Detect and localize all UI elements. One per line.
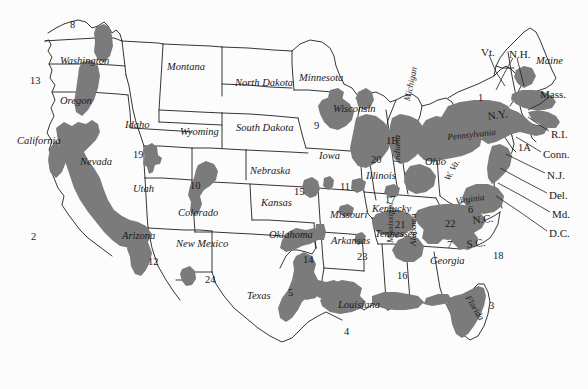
state-label-illinois: Illinois bbox=[366, 171, 396, 182]
abbr-label-conn: Conn. bbox=[543, 149, 570, 160]
state-label-nevada: Nevada bbox=[80, 157, 112, 168]
abbr-label-r-i: R.I. bbox=[551, 129, 568, 140]
state-label-new-mexico: New Mexico bbox=[176, 239, 228, 250]
number-label-3: 3 bbox=[489, 301, 494, 312]
state-label-texas: Texas bbox=[247, 291, 271, 302]
abbr-label-n-h: N.H. bbox=[509, 49, 530, 60]
number-label-9: 9 bbox=[314, 121, 319, 132]
number-label-11: 11 bbox=[340, 182, 350, 193]
abbr-label-mass: Mass. bbox=[540, 89, 566, 100]
number-label-24: 24 bbox=[205, 275, 216, 286]
state-label-california: California bbox=[17, 136, 61, 147]
number-label-2: 2 bbox=[31, 232, 36, 243]
abbr-label-del: Del. bbox=[549, 190, 568, 201]
state-label-oklahoma: Oklahoma bbox=[269, 230, 313, 241]
abbr-label-vt: Vt. bbox=[481, 47, 495, 58]
state-label-montana: Montana bbox=[167, 62, 205, 73]
number-label-23: 23 bbox=[357, 252, 368, 263]
state-label-louisiana: Louisiana bbox=[338, 300, 380, 311]
number-label-12: 12 bbox=[148, 257, 159, 268]
number-label-7: 7 bbox=[447, 240, 452, 251]
state-label-maine: Maine bbox=[536, 56, 563, 67]
number-label-1a: 1A bbox=[518, 143, 531, 154]
state-label-idaho: Idaho bbox=[125, 120, 150, 131]
number-label-22: 22 bbox=[445, 219, 456, 230]
number-label-16: 16 bbox=[397, 271, 408, 282]
state-label-north-dakota: North Dakota bbox=[235, 78, 293, 89]
number-label-15: 15 bbox=[294, 187, 305, 198]
state-label-alabama: Alabama bbox=[409, 214, 418, 247]
state-label-kansas: Kansas bbox=[261, 198, 292, 209]
state-label-utah: Utah bbox=[133, 184, 154, 195]
state-label-minnesota: Minnesota bbox=[299, 73, 343, 84]
state-label-oregon: Oregon bbox=[60, 96, 92, 107]
number-label-19: 19 bbox=[133, 150, 144, 161]
state-label-arkansas: Arkansas bbox=[331, 236, 370, 247]
us-map: WashingtonOregonCaliforniaNevadaIdahoMon… bbox=[0, 0, 588, 389]
state-label-missouri: Missouri bbox=[330, 210, 367, 221]
state-label-iowa: Iowa bbox=[319, 151, 340, 162]
state-label-arizona: Arizona bbox=[122, 231, 155, 242]
number-label-8: 8 bbox=[70, 20, 75, 31]
state-label-ohio: Ohio bbox=[425, 157, 446, 168]
number-label-5: 5 bbox=[288, 288, 293, 299]
state-label-georgia: Georgia bbox=[430, 256, 465, 267]
abbr-label-d-c: D.C. bbox=[549, 228, 570, 239]
number-label-21: 21 bbox=[395, 220, 406, 231]
state-label-washington: Washington bbox=[60, 56, 109, 67]
number-label-13: 13 bbox=[30, 76, 41, 87]
state-label-south-dakota: South Dakota bbox=[236, 123, 293, 134]
number-label-14: 14 bbox=[303, 255, 314, 266]
number-label-4: 4 bbox=[344, 327, 349, 338]
abbr-label-md: Md. bbox=[552, 209, 570, 220]
number-label-6: 6 bbox=[468, 205, 473, 216]
state-label-wisconsin: Wisconsin bbox=[333, 104, 376, 115]
state-label-nebraska: Nebraska bbox=[250, 166, 290, 177]
abbr-label-n-j: N.J. bbox=[547, 170, 565, 181]
abbr-label-n-c: N.C. bbox=[472, 213, 494, 226]
number-label-1: 1 bbox=[478, 93, 483, 104]
state-label-mississippi: Mississippi bbox=[386, 202, 395, 243]
number-label-10: 10 bbox=[190, 181, 201, 192]
number-label-20: 20 bbox=[371, 155, 382, 166]
number-label-18: 18 bbox=[493, 251, 504, 262]
number-label-17: 17 bbox=[385, 195, 396, 206]
number-label-1b: 1B bbox=[386, 136, 398, 147]
abbr-label-s-c: S.C. bbox=[466, 237, 486, 250]
state-label-colorado: Colorado bbox=[178, 208, 218, 219]
state-label-wyoming: Wyoming bbox=[180, 127, 219, 138]
